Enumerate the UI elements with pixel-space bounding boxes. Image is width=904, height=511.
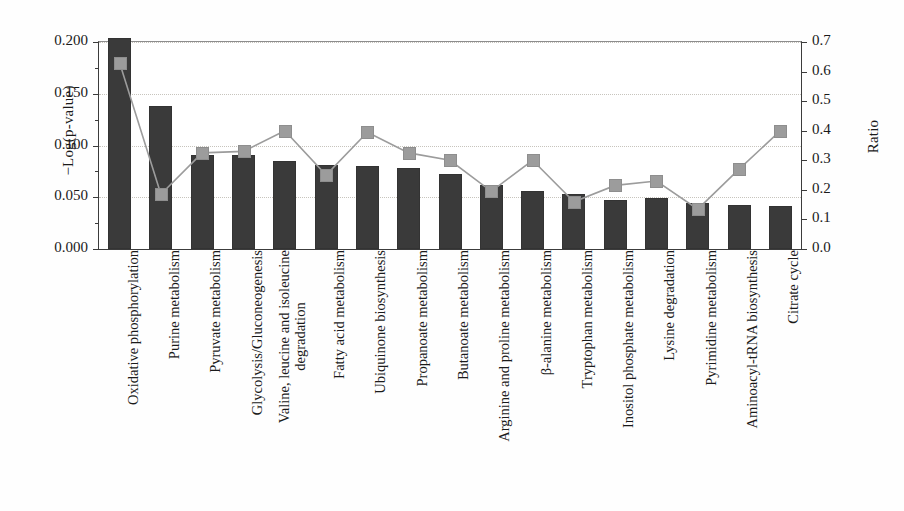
x-category-label-text: Citrate cycle <box>785 250 801 324</box>
ratio-marker <box>609 179 622 192</box>
ratio-marker <box>485 185 498 198</box>
ratio-marker <box>196 147 209 160</box>
chart-root: −Log(p-value) Ratio 0.0000.0500.1000.150… <box>0 0 904 511</box>
ratio-marker <box>774 125 787 138</box>
ratio-marker <box>279 125 292 138</box>
y-ticklabel-left: 0.050 <box>10 188 88 203</box>
ratio-marker <box>692 203 705 216</box>
x-category-label-text: Lysine degradation <box>661 250 677 361</box>
x-category-label-text: Tryptophan metabolism <box>579 250 595 388</box>
x-category-label-text: Purine metabolism <box>166 250 182 359</box>
y-ticklabel-right: 0.0 <box>812 240 872 255</box>
plot-area <box>98 41 802 250</box>
x-category-label-text: Pyruvate metabolism <box>207 250 223 373</box>
x-category-label-text: Inositol phosphate metabolism <box>620 250 636 428</box>
ratio-marker <box>444 154 457 167</box>
y-ticklabel-right: 0.1 <box>812 210 872 225</box>
y-ticklabel-right: 0.3 <box>812 151 872 166</box>
x-category-label-text: Oxidative phosphorylation <box>125 250 141 405</box>
ratio-marker <box>403 147 416 160</box>
y-tick-right <box>801 190 807 191</box>
y-tick-right <box>801 101 807 102</box>
y-ticklabel-left: 0.000 <box>10 240 88 255</box>
y-ticklabel-left: 0.200 <box>10 33 88 48</box>
y-ticklabel-right: 0.7 <box>812 33 872 48</box>
y-ticklabel-left: 0.100 <box>10 137 88 152</box>
y-axis-left-title: −Log(p-value) <box>60 61 77 201</box>
ratio-marker <box>733 163 746 176</box>
ratio-marker <box>361 126 374 139</box>
y-tick-right <box>801 219 807 220</box>
x-category-label-text: Aminoacyl-tRNA biosynthesis <box>744 250 760 428</box>
x-category-label-text: Arginine and proline metabolism <box>496 250 512 442</box>
ratio-marker <box>320 169 333 182</box>
ratio-marker <box>568 196 581 209</box>
ratio-marker <box>238 145 251 158</box>
x-category-label-text: Propanoate metabolism <box>414 250 430 387</box>
x-category-label-text: Valine, leucine and isoleucinedegradatio… <box>276 250 308 423</box>
ratio-line-series <box>99 42 801 249</box>
x-category-label-text: Fatty acid metabolism <box>331 250 347 379</box>
x-axis-category-labels: Oxidative phosphorylationPurine metaboli… <box>98 250 800 508</box>
y-ticklabel-right: 0.2 <box>812 181 872 196</box>
y-ticklabel-right: 0.6 <box>812 63 872 78</box>
ratio-marker <box>527 154 540 167</box>
y-ticklabel-left: 0.150 <box>10 85 88 100</box>
x-category-label-text: Butanoate metabolism <box>455 250 471 380</box>
ratio-marker <box>155 188 168 201</box>
y-ticklabel-right: 0.4 <box>812 122 872 137</box>
y-tick-right <box>801 72 807 73</box>
x-category-label-text: Pyrimidine metabolism <box>703 250 719 386</box>
y-tick-right <box>801 249 807 250</box>
ratio-marker <box>114 57 127 70</box>
y-tick-right <box>801 42 807 43</box>
x-category-label-text: Glycolysis/Gluconeogenesis <box>249 250 265 415</box>
y-ticklabel-right: 0.5 <box>812 92 872 107</box>
x-category-label-text: Ubiquinone biosynthesis <box>372 250 388 394</box>
y-tick-right <box>801 160 807 161</box>
ratio-marker <box>650 175 663 188</box>
y-tick-right <box>801 131 807 132</box>
x-category-label-text: β-alanine metabolism <box>538 250 554 375</box>
